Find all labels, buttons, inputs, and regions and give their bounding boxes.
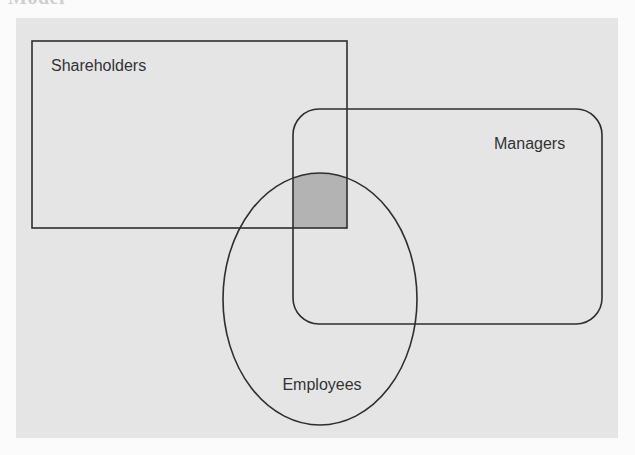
- employees-label: Employees: [282, 376, 361, 393]
- venn-diagram: Shareholders Managers Employees: [0, 0, 635, 455]
- shareholders-label: Shareholders: [51, 57, 146, 74]
- managers-label: Managers: [494, 135, 565, 152]
